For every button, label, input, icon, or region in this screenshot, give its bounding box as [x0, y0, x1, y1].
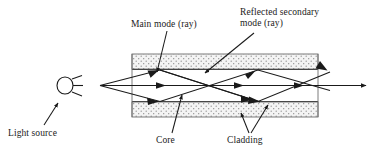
axial-ray-arrowhead-2: [234, 82, 244, 89]
label-reflected-secondary-line1: Reflected secondary: [240, 7, 319, 17]
label-light-source: Light source: [8, 128, 57, 139]
axial-ray-arrowhead-1: [156, 82, 166, 89]
label-cladding: Cladding: [227, 135, 263, 146]
light-source-icon: [57, 76, 83, 97]
optical-fiber-diagram: Main mode (ray) Reflected secondary mode…: [0, 0, 374, 159]
cladding-lower: [132, 102, 318, 117]
label-main-mode: Main mode (ray): [131, 19, 197, 30]
leader-lines: [44, 31, 268, 133]
label-core: Core: [156, 135, 175, 146]
leader-light-source: [44, 103, 58, 125]
lower-bounce-arrowhead-2: [245, 70, 256, 79]
label-reflected-secondary: Reflected secondary mode (ray): [240, 7, 319, 29]
label-reflected-secondary-line2: mode (ray): [240, 18, 283, 28]
